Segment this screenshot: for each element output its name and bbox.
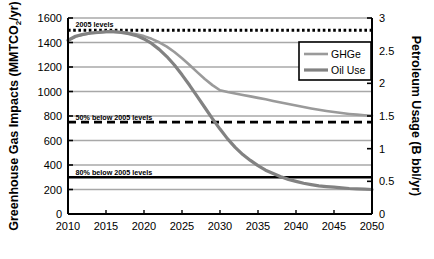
y-ticklabel-right: 2	[379, 77, 385, 89]
reference-line-label: 80% below 2005 levels	[76, 168, 153, 177]
y-axis-right-ticklabels: 00.511.522.53	[379, 12, 394, 220]
x-ticklabel: 2020	[132, 220, 156, 232]
reference-line-label: 50% below 2005 levels	[76, 113, 153, 122]
y-axis-left-title-tail: /yr)	[7, 1, 21, 20]
y-axis-left-ticklabels: 02004006008001000120014001600	[38, 12, 62, 220]
y-ticklabel-left: 800	[44, 110, 62, 122]
legend-label-ghge: GHGe	[331, 48, 361, 60]
reference-line-label: 2005 levels	[76, 20, 114, 29]
y-ticklabel-left: 1200	[38, 61, 62, 73]
y-axis-left-title-main: Greenhouse Gas Impacts (MMTCO	[7, 25, 21, 231]
legend-label-oil-use: Oil Use	[331, 64, 366, 76]
x-ticklabel: 2015	[94, 220, 118, 232]
x-ticklabel: 2050	[360, 220, 384, 232]
y-ticklabel-right: 1	[379, 143, 385, 155]
chart-legend: GHGe Oil Use	[299, 42, 371, 80]
y-axis-right-title: Petroleum Usage (B bbl/yr)	[409, 36, 423, 196]
x-ticklabel: 2035	[246, 220, 270, 232]
y-ticklabel-left: 1000	[38, 86, 62, 98]
y-ticklabel-right: 2.5	[379, 45, 394, 57]
x-ticklabel: 2045	[322, 220, 346, 232]
y-axis-left-title: Greenhouse Gas Impacts (MMTCO2/yr)	[7, 1, 23, 231]
x-ticklabel: 2030	[208, 220, 232, 232]
y-ticklabel-right: 3	[379, 12, 385, 24]
x-axis-ticklabels: 201020152020202520302035204020452050	[56, 220, 384, 232]
y-ticklabel-left: 600	[44, 135, 62, 147]
y-ticklabel-right: 0.5	[379, 175, 394, 187]
y-ticklabel-left: 400	[44, 159, 62, 171]
y-ticklabel-left: 1600	[38, 12, 62, 24]
x-ticklabel: 2040	[284, 220, 308, 232]
y-ticklabel-right: 0	[379, 208, 385, 220]
chart-svg: 02004006008001000120014001600 00.511.522…	[0, 0, 434, 259]
y-ticklabel-left: 0	[56, 208, 62, 220]
chart-container: 02004006008001000120014001600 00.511.522…	[0, 0, 434, 259]
y-ticklabel-left: 200	[44, 184, 62, 196]
y-ticklabel-right: 1.5	[379, 110, 394, 122]
y-ticklabel-left: 1400	[38, 37, 62, 49]
x-ticklabel: 2025	[170, 220, 194, 232]
x-ticklabel: 2010	[56, 220, 80, 232]
